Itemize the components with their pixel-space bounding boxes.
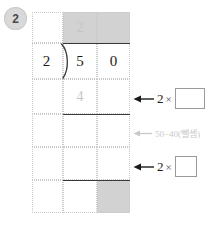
left-arrow-icon-2 xyxy=(133,162,155,172)
multiplication-sign-icon-2: × xyxy=(166,161,172,173)
annotation-subtraction: 50−40(뺄셈) xyxy=(133,127,200,140)
grid-cell-r6c2 xyxy=(63,180,97,213)
dividend-ones-digit: 0 xyxy=(97,43,130,79)
worksheet-canvas: 2 2 2 xyxy=(0,0,224,226)
problem-number-badge: 2 xyxy=(4,7,27,30)
problem-number-label: 2 xyxy=(12,12,19,26)
grid-cell-r5c2[interactable] xyxy=(63,147,97,180)
grid-cell-r4c1 xyxy=(32,114,63,147)
grid-cell-r3c3[interactable] xyxy=(97,79,130,114)
partial-product-digit: 4 xyxy=(63,79,97,114)
second-partial-product-rule xyxy=(63,180,130,181)
grid-cell-r1c3-quotient-ones[interactable] xyxy=(97,12,130,43)
partial-product-rule xyxy=(63,114,130,115)
long-division-grid: 2 2 5 0 4 xyxy=(32,12,130,213)
grid-cell-r3c1 xyxy=(32,79,63,114)
grid-cell-r6c3-remainder[interactable] xyxy=(97,180,130,213)
left-arrow-icon xyxy=(133,94,155,104)
left-arrow-faint-icon xyxy=(133,129,153,138)
annotation-factor-tens: 2 xyxy=(157,91,164,107)
grid-cell-r5c1 xyxy=(32,147,63,180)
answer-blank-tens[interactable] xyxy=(175,88,205,109)
grid-cell-r5c3-second-partial-product[interactable] xyxy=(97,147,130,180)
annotation-factor-ones: 2 xyxy=(157,159,164,175)
grid-cell-r6c1 xyxy=(32,180,63,213)
annotation-subtraction-label: 50−40(뺄셈) xyxy=(155,127,200,140)
dividend-tens-digit: 5 xyxy=(63,43,97,79)
grid-cell-r4c2-difference-tens[interactable] xyxy=(63,114,97,147)
annotation-multiply-ones: 2 × xyxy=(133,156,197,177)
annotation-multiply-tens: 2 × xyxy=(133,88,205,109)
divisor-digit: 2 xyxy=(32,43,61,79)
grid-cell-r1c1 xyxy=(32,12,63,43)
quotient-tens-digit: 2 xyxy=(63,12,97,43)
grid-cell-r4c3-difference-ones[interactable] xyxy=(97,114,130,147)
answer-blank-ones[interactable] xyxy=(175,156,197,177)
multiplication-sign-icon: × xyxy=(166,93,172,105)
